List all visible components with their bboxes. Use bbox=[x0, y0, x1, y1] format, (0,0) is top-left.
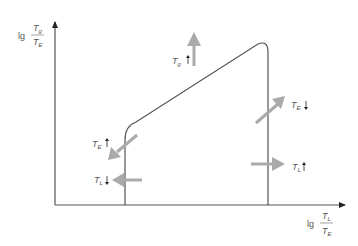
svg-text:TL: TL bbox=[322, 211, 331, 222]
arrow-te-upper-right bbox=[256, 96, 285, 123]
svg-text:TL: TL bbox=[292, 162, 301, 173]
label-te-up: TE bbox=[92, 138, 109, 150]
up-arrow-icon bbox=[105, 138, 109, 147]
x-axis-label: lg TL TE bbox=[307, 211, 333, 237]
svg-text:TL: TL bbox=[94, 175, 103, 186]
up-arrow-icon bbox=[186, 55, 190, 64]
label-te-down: TE bbox=[291, 100, 308, 111]
svg-text:TE: TE bbox=[33, 37, 44, 48]
label-tl-down: TL bbox=[94, 175, 109, 186]
envelope-curve bbox=[125, 43, 268, 205]
svg-text:Tg: Tg bbox=[172, 56, 182, 67]
up-arrow-icon bbox=[302, 162, 306, 171]
arrow-te-lower-left bbox=[108, 135, 137, 160]
svg-text:TE: TE bbox=[322, 226, 333, 237]
svg-text:TE: TE bbox=[291, 100, 302, 111]
down-arrow-icon bbox=[105, 176, 109, 185]
label-tg-up: Tg bbox=[172, 55, 190, 67]
svg-text:TE: TE bbox=[92, 139, 103, 150]
operating-envelope-diagram: lg Tg TE lg TL TE Tg TE TE TL TL bbox=[0, 0, 358, 246]
svg-text:lg: lg bbox=[18, 31, 25, 41]
svg-text:Tg: Tg bbox=[33, 23, 43, 34]
svg-text:lg: lg bbox=[307, 219, 314, 229]
arrow-tl-left bbox=[112, 173, 142, 187]
arrow-tg-up bbox=[187, 32, 201, 66]
y-axis-label: lg Tg TE bbox=[18, 23, 44, 48]
down-arrow-icon bbox=[304, 101, 308, 110]
label-tl-up: TL bbox=[292, 162, 306, 173]
